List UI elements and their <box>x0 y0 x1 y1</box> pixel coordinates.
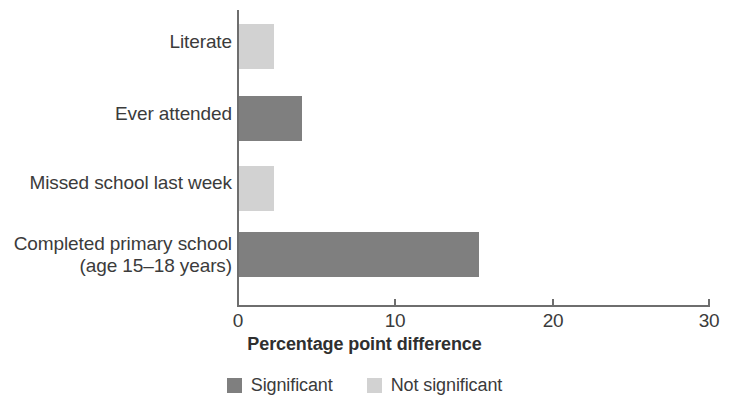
bar-chart-figure: Literate Ever attended Missed school las… <box>0 0 729 406</box>
legend-entry-significant: Significant <box>227 375 333 396</box>
legend-swatch-not-significant-icon <box>367 378 382 393</box>
category-label-missed-school-last-week: Missed school last week <box>29 172 232 194</box>
x-tick-label-20: 20 <box>543 310 564 332</box>
x-tick-label-10: 10 <box>385 310 406 332</box>
x-tick-label-30: 30 <box>699 310 720 332</box>
category-label-completed-primary-school: Completed primary school (age 15–18 year… <box>14 233 232 278</box>
x-axis-title: Percentage point difference <box>0 334 729 355</box>
bar-completed-primary-school <box>239 232 479 277</box>
legend-entry-not-significant: Not significant <box>367 375 503 396</box>
category-label-ever-attended: Ever attended <box>115 103 232 125</box>
legend-label-significant: Significant <box>251 375 333 396</box>
legend-label-not-significant: Not significant <box>391 375 503 396</box>
x-tick-mark-0 <box>237 299 239 307</box>
x-tick-mark-30 <box>708 299 710 307</box>
legend-swatch-significant-icon <box>227 378 242 393</box>
bar-ever-attended <box>239 96 302 141</box>
x-tick-mark-20 <box>552 299 554 307</box>
bar-missed-school-last-week <box>239 166 274 211</box>
x-tick-label-0: 0 <box>233 310 243 332</box>
chart-legend: Significant Not significant <box>0 375 729 396</box>
plot-area: 0 10 20 30 <box>237 10 710 305</box>
bar-literate <box>239 24 274 69</box>
x-tick-mark-10 <box>394 299 396 307</box>
x-axis-line <box>237 305 710 307</box>
category-label-literate: Literate <box>169 31 232 53</box>
